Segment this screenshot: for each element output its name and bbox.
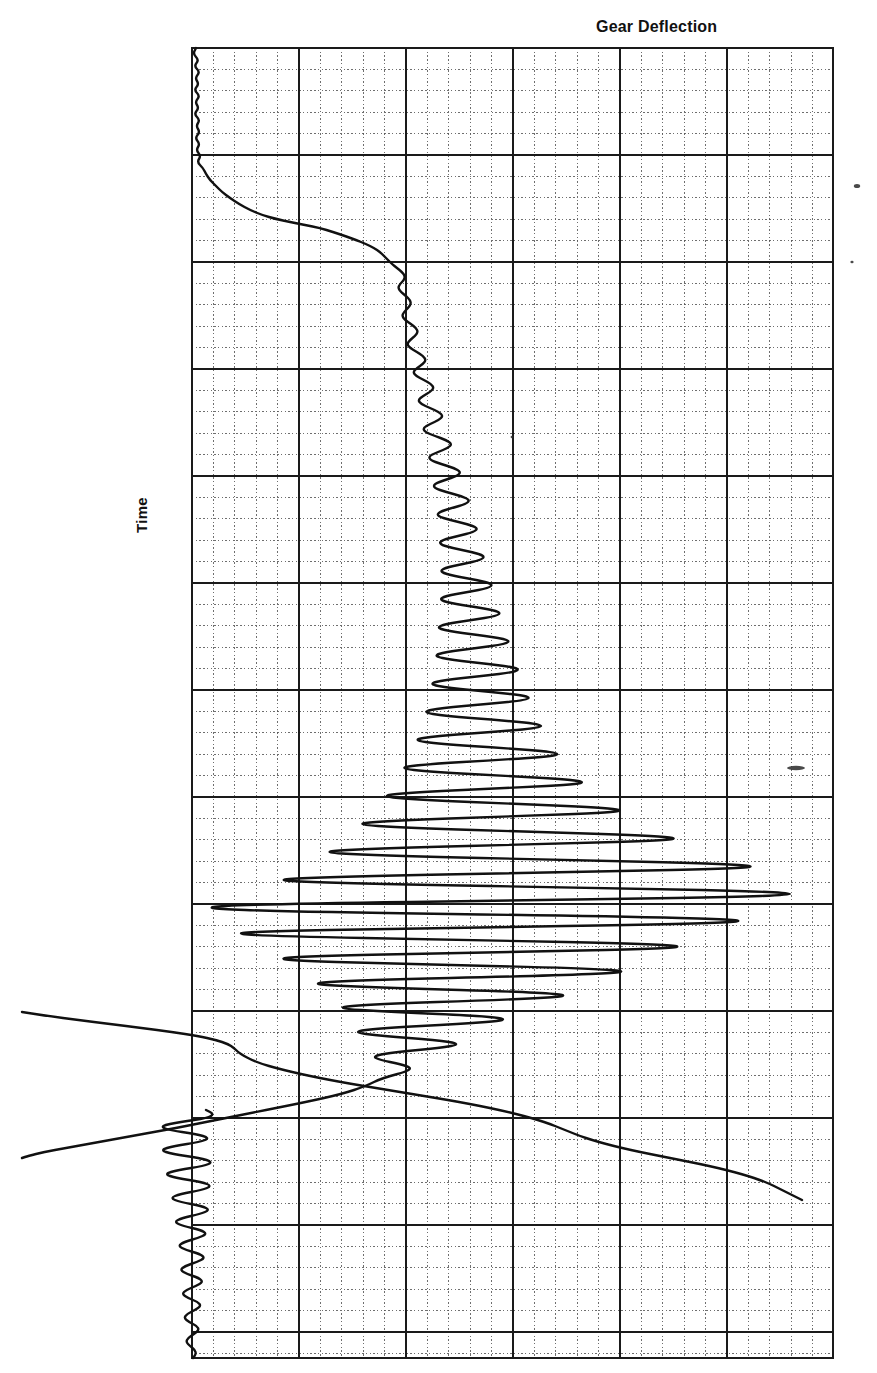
scan-artifacts [511, 184, 861, 770]
grid-major-lines [192, 48, 833, 1358]
data-trace [22, 48, 802, 1358]
plot-svg [0, 0, 877, 1373]
plot-area [0, 0, 877, 1373]
chart-figure: Gear Deflection Time [0, 0, 877, 1373]
